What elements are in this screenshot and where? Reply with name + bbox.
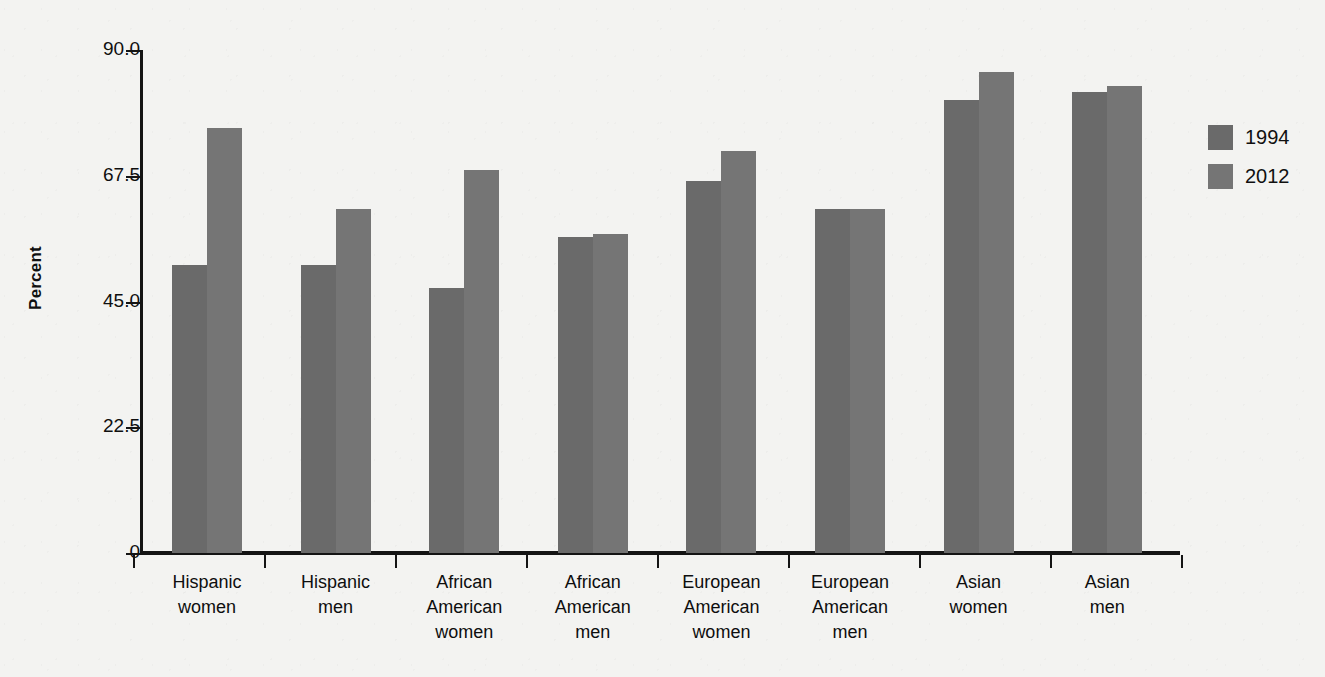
category-label-african-american-women: AfricanAmericanwomen <box>394 570 534 645</box>
category-label-line: men <box>266 595 406 620</box>
category-label-african-american-men: AfricanAmericanmen <box>523 570 663 645</box>
category-label-line: American <box>394 595 534 620</box>
legend-label: 1994 <box>1245 126 1290 149</box>
bar-1994-hispanic-women <box>172 265 207 553</box>
category-label-hispanic-women: Hispanicwomen <box>137 570 277 620</box>
category-label-line: European <box>780 570 920 595</box>
legend-label: 2012 <box>1245 165 1290 188</box>
legend-swatch-icon <box>1208 164 1233 189</box>
bar-1994-african-american-women <box>429 288 464 553</box>
category-label-asian-women: Asianwomen <box>909 570 1049 620</box>
chart-legend: 19942012 <box>1208 125 1290 189</box>
category-label-line: Hispanic <box>266 570 406 595</box>
bar-1994-asian-women <box>944 100 979 553</box>
bar-1994-european-american-men <box>815 209 850 553</box>
bar-1994-asian-men <box>1072 92 1107 553</box>
legend-item-1994[interactable]: 1994 <box>1208 125 1290 150</box>
category-label-line: American <box>651 595 791 620</box>
category-label-hispanic-men: Hispanicmen <box>266 570 406 620</box>
bar-1994-hispanic-men <box>301 265 336 553</box>
category-label-line: women <box>137 595 277 620</box>
category-label-line: women <box>909 595 1049 620</box>
bar-2012-european-american-women <box>721 151 756 553</box>
category-label-line: Asian <box>1037 570 1177 595</box>
category-label-european-american-women: EuropeanAmericanwomen <box>651 570 791 645</box>
category-label-line: American <box>523 595 663 620</box>
bar-2012-european-american-men <box>850 209 885 553</box>
bar-1994-african-american-men <box>558 237 593 553</box>
category-label-line: African <box>523 570 663 595</box>
category-label-asian-men: Asianmen <box>1037 570 1177 620</box>
bar-2012-hispanic-women <box>207 128 242 553</box>
bar-2012-african-american-men <box>593 234 628 553</box>
legend-item-2012[interactable]: 2012 <box>1208 164 1290 189</box>
legend-swatch-icon <box>1208 125 1233 150</box>
category-label-line: African <box>394 570 534 595</box>
bar-chart: Percent 90.067.545.022.50 HispanicwomenH… <box>0 0 1325 677</box>
category-label-line: American <box>780 595 920 620</box>
category-label-european-american-men: EuropeanAmericanmen <box>780 570 920 645</box>
bar-2012-asian-women <box>979 72 1014 553</box>
category-label-line: men <box>780 620 920 645</box>
category-label-line: Hispanic <box>137 570 277 595</box>
category-label-line: European <box>651 570 791 595</box>
category-label-line: women <box>651 620 791 645</box>
category-label-line: men <box>523 620 663 645</box>
bar-2012-asian-men <box>1107 86 1142 553</box>
category-label-line: men <box>1037 595 1177 620</box>
category-label-line: Asian <box>909 570 1049 595</box>
bar-1994-european-american-women <box>686 181 721 553</box>
bar-2012-hispanic-men <box>336 209 371 553</box>
category-label-line: women <box>394 620 534 645</box>
bar-2012-african-american-women <box>464 170 499 553</box>
